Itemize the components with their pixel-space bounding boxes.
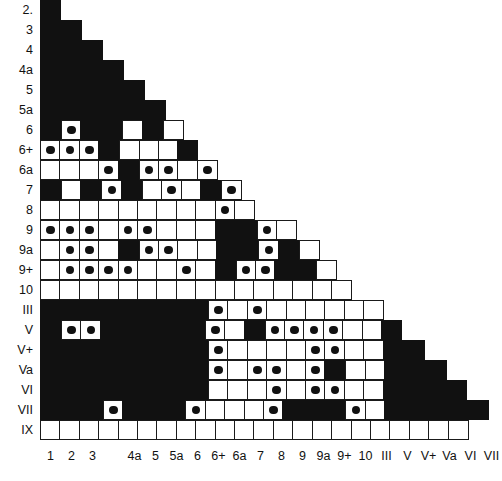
matrix-cell-black[interactable] (384, 400, 405, 420)
matrix-cell-black[interactable] (447, 400, 468, 420)
matrix-cell-dot[interactable] (266, 360, 287, 380)
matrix-cell-black[interactable] (215, 220, 236, 240)
matrix-cell-white[interactable] (98, 280, 119, 300)
matrix-cell-white[interactable] (224, 320, 245, 340)
matrix-cell-white[interactable] (79, 160, 100, 180)
matrix-cell-black[interactable] (187, 300, 208, 320)
matrix-cell-dot[interactable] (161, 180, 182, 200)
matrix-cell-black[interactable] (142, 320, 163, 340)
matrix-cell-white[interactable] (40, 240, 61, 260)
matrix-cell-black[interactable] (40, 400, 61, 420)
matrix-cell-black[interactable] (121, 320, 142, 340)
matrix-cell-black[interactable] (61, 40, 82, 60)
matrix-cell-white[interactable] (176, 420, 197, 440)
matrix-cell-white[interactable] (253, 280, 274, 300)
matrix-cell-white[interactable] (344, 380, 365, 400)
matrix-cell-black[interactable] (103, 300, 124, 320)
matrix-cell-white[interactable] (176, 220, 197, 240)
matrix-cell-dot[interactable] (208, 360, 229, 380)
matrix-cell-black[interactable] (82, 80, 103, 100)
matrix-cell-white[interactable] (40, 420, 61, 440)
matrix-cell-white[interactable] (177, 240, 198, 260)
matrix-cell-black[interactable] (80, 180, 101, 200)
matrix-cell-white[interactable] (142, 180, 163, 200)
matrix-cell-white[interactable] (227, 340, 248, 360)
matrix-cell-black[interactable] (216, 240, 237, 260)
matrix-cell-black[interactable] (244, 320, 265, 340)
matrix-cell-black[interactable] (103, 340, 124, 360)
matrix-cell-white[interactable] (273, 280, 294, 300)
matrix-cell-dot[interactable] (103, 400, 124, 420)
matrix-cell-dot[interactable] (59, 220, 80, 240)
matrix-cell-black[interactable] (61, 360, 82, 380)
matrix-cell-white[interactable] (286, 300, 307, 320)
matrix-cell-black[interactable] (40, 380, 61, 400)
matrix-cell-dot[interactable] (208, 300, 229, 320)
matrix-cell-black[interactable] (40, 100, 61, 120)
matrix-cell-white[interactable] (40, 200, 61, 220)
matrix-cell-dot[interactable] (185, 400, 206, 420)
matrix-cell-black[interactable] (82, 340, 103, 360)
matrix-cell-dot[interactable] (59, 140, 80, 160)
matrix-cell-dot[interactable] (257, 220, 278, 240)
matrix-cell-white[interactable] (158, 140, 179, 160)
matrix-cell-white[interactable] (331, 280, 352, 300)
matrix-cell-black[interactable] (40, 60, 61, 80)
matrix-cell-black[interactable] (40, 320, 61, 340)
matrix-cell-white[interactable] (137, 280, 158, 300)
matrix-cell-black[interactable] (118, 240, 139, 260)
matrix-cell-dot[interactable] (255, 260, 276, 280)
matrix-cell-white[interactable] (137, 200, 158, 220)
matrix-cell-dot[interactable] (208, 340, 229, 360)
matrix-cell-white[interactable] (118, 420, 139, 440)
matrix-cell-white[interactable] (370, 420, 391, 440)
matrix-cell-black[interactable] (124, 100, 145, 120)
matrix-cell-black[interactable] (324, 360, 345, 380)
matrix-cell-dot[interactable] (139, 240, 160, 260)
matrix-cell-white[interactable] (118, 280, 139, 300)
matrix-cell-dot[interactable] (79, 260, 100, 280)
matrix-cell-white[interactable] (156, 260, 177, 280)
matrix-cell-white[interactable] (59, 420, 80, 440)
matrix-cell-white[interactable] (292, 280, 313, 300)
matrix-cell-black[interactable] (425, 380, 446, 400)
matrix-cell-white[interactable] (156, 220, 177, 240)
matrix-cell-white[interactable] (98, 200, 119, 220)
matrix-cell-black[interactable] (40, 120, 61, 140)
matrix-cell-dot[interactable] (59, 240, 80, 260)
matrix-cell-dot[interactable] (215, 200, 236, 220)
matrix-cell-black[interactable] (446, 380, 467, 400)
matrix-cell-white[interactable] (363, 380, 384, 400)
matrix-cell-white[interactable] (227, 360, 248, 380)
matrix-cell-dot[interactable] (118, 260, 139, 280)
matrix-cell-white[interactable] (137, 260, 158, 280)
matrix-cell-white[interactable] (342, 320, 363, 340)
matrix-cell-white[interactable] (59, 280, 80, 300)
matrix-cell-white[interactable] (286, 360, 307, 380)
matrix-cell-white[interactable] (363, 340, 384, 360)
matrix-cell-white[interactable] (176, 200, 197, 220)
matrix-cell-white[interactable] (299, 240, 320, 260)
matrix-cell-black[interactable] (40, 20, 61, 40)
matrix-cell-white[interactable] (40, 160, 61, 180)
matrix-cell-black[interactable] (166, 380, 187, 400)
matrix-cell-black[interactable] (124, 360, 145, 380)
matrix-cell-white[interactable] (195, 200, 216, 220)
matrix-cell-white[interactable] (345, 360, 366, 380)
matrix-cell-black[interactable] (404, 340, 425, 360)
matrix-cell-white[interactable] (40, 260, 61, 280)
matrix-cell-white[interactable] (428, 420, 449, 440)
matrix-cell-black[interactable] (82, 100, 103, 120)
matrix-cell-dot[interactable] (61, 120, 82, 140)
matrix-cell-white[interactable] (181, 180, 202, 200)
matrix-cell-black[interactable] (61, 60, 82, 80)
matrix-cell-dot[interactable] (40, 220, 61, 240)
matrix-cell-white[interactable] (215, 420, 236, 440)
matrix-cell-white[interactable] (234, 420, 255, 440)
matrix-cell-black[interactable] (163, 320, 184, 340)
matrix-cell-dot[interactable] (324, 340, 345, 360)
matrix-cell-white[interactable] (409, 420, 430, 440)
matrix-cell-black[interactable] (103, 100, 124, 120)
matrix-cell-black[interactable] (121, 180, 142, 200)
matrix-cell-dot[interactable] (197, 160, 218, 180)
